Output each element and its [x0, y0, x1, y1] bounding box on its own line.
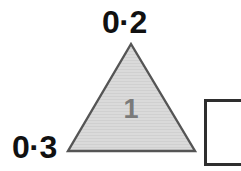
triangle-inner-value: 1	[121, 96, 141, 123]
label-left-value: 0·3	[12, 131, 57, 163]
label-top-value: 0·2	[102, 6, 147, 38]
answer-box[interactable]	[204, 99, 241, 166]
worksheet-canvas: 1 0·2 0·3	[0, 0, 241, 171]
